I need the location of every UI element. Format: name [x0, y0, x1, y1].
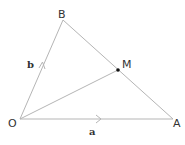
- point-M-dot: [116, 68, 120, 72]
- vector-triangle-diagram: O A B M b a: [0, 0, 185, 145]
- label-A: A: [173, 117, 181, 130]
- vector-label-a: a: [89, 126, 96, 137]
- label-M: M: [122, 58, 132, 71]
- label-O: O: [8, 117, 17, 130]
- label-B: B: [58, 8, 66, 21]
- vector-label-b: b: [27, 59, 34, 70]
- segment-OM: [20, 70, 118, 119]
